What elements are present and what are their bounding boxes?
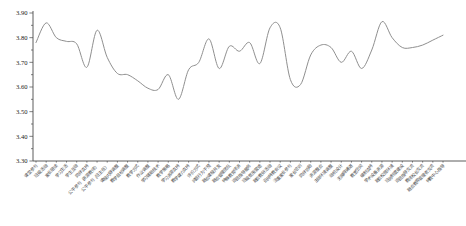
x-axis-labels: 课堂参与班级活动家长陪读学习生活学生互动同伴支持公平参与（资源教师）公平参与（班… — [23, 162, 447, 196]
score-line — [36, 21, 443, 99]
line-chart-figure: 3.303.403.503.603.703.803.90 课堂参与班级活动家长陪… — [0, 0, 466, 226]
y-axis — [29, 11, 33, 161]
y-tick-label: 3.90 — [16, 9, 28, 16]
data-series — [36, 21, 443, 99]
x-axis — [33, 161, 466, 163]
y-tick-label: 3.60 — [16, 83, 28, 90]
y-tick-label: 3.50 — [16, 108, 28, 115]
y-tick-label: 3.70 — [16, 59, 28, 66]
y-axis-labels: 3.303.403.503.603.703.803.90 — [16, 9, 28, 164]
survey-score-line-chart: 3.303.403.503.603.703.803.90 课堂参与班级活动家长陪… — [0, 0, 466, 226]
y-tick-label: 3.80 — [16, 34, 28, 41]
y-tick-label: 3.40 — [16, 133, 28, 140]
y-tick-label: 3.30 — [16, 157, 28, 164]
